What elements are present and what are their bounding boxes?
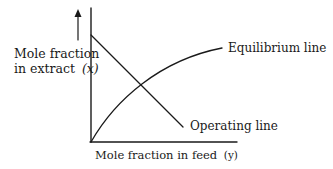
operating-line-label: Operating line [190,119,278,133]
x-axis-variable: (y) [224,149,238,161]
y-axis-label-text: in extract [14,61,75,76]
operating-line [91,35,183,127]
x-axis-label-text: Mole fraction in feed [95,148,218,162]
x-axis-label: Mole fraction in feed (y) [95,148,238,162]
y-axis-variable: (x) [82,61,99,76]
extraction-diagram: Mole fraction in extract (x) Mole fracti… [0,0,333,169]
y-axis-label-line1: Mole fraction [14,46,99,61]
equilibrium-line-label: Equilibrium line [228,41,326,55]
y-axis-label-line2: in extract (x) [14,61,99,76]
up-arrow-icon [75,9,82,40]
